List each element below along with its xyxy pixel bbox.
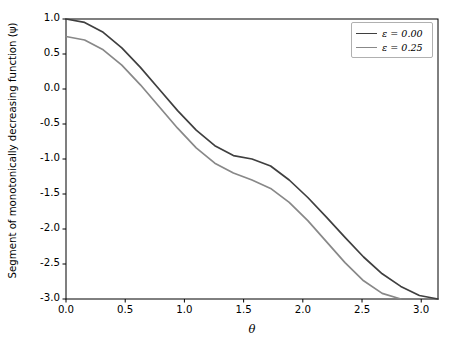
x-tick-label: 0.0 xyxy=(46,304,86,315)
x-tick-label: 1.0 xyxy=(164,304,204,315)
y-tick-label: -0.5 xyxy=(26,117,60,128)
x-tick-label: 2.5 xyxy=(342,304,382,315)
x-tick-label: 1.5 xyxy=(224,304,264,315)
legend-item: ε = 0.25 xyxy=(356,40,427,54)
chart-figure: Segment of monotonically decreasing func… xyxy=(0,0,452,350)
y-tick-label: -2.5 xyxy=(26,257,60,268)
legend-label-0: ε = 0.00 xyxy=(382,28,423,39)
x-tick-label: 2.0 xyxy=(283,304,323,315)
legend-item: ε = 0.00 xyxy=(356,26,427,40)
legend-line-swatch-0 xyxy=(356,33,377,34)
y-tick-label: -1.5 xyxy=(26,187,60,198)
legend: ε = 0.00 ε = 0.25 xyxy=(351,22,433,58)
x-axis-label: θ xyxy=(66,322,438,336)
y-tick-label: -1.0 xyxy=(26,152,60,163)
y-tick-label: -3.0 xyxy=(26,292,60,303)
y-tick-marks xyxy=(63,19,67,299)
x-tick-label: 0.5 xyxy=(105,304,145,315)
legend-label-1: ε = 0.25 xyxy=(382,42,423,53)
y-tick-label: 1.0 xyxy=(26,12,60,23)
y-tick-label: 0.0 xyxy=(26,82,60,93)
legend-line-swatch-1 xyxy=(356,47,377,48)
y-tick-label: -2.0 xyxy=(26,222,60,233)
x-tick-label: 3.0 xyxy=(401,304,441,315)
y-tick-label: 0.5 xyxy=(26,47,60,58)
x-tick-marks xyxy=(66,299,421,303)
